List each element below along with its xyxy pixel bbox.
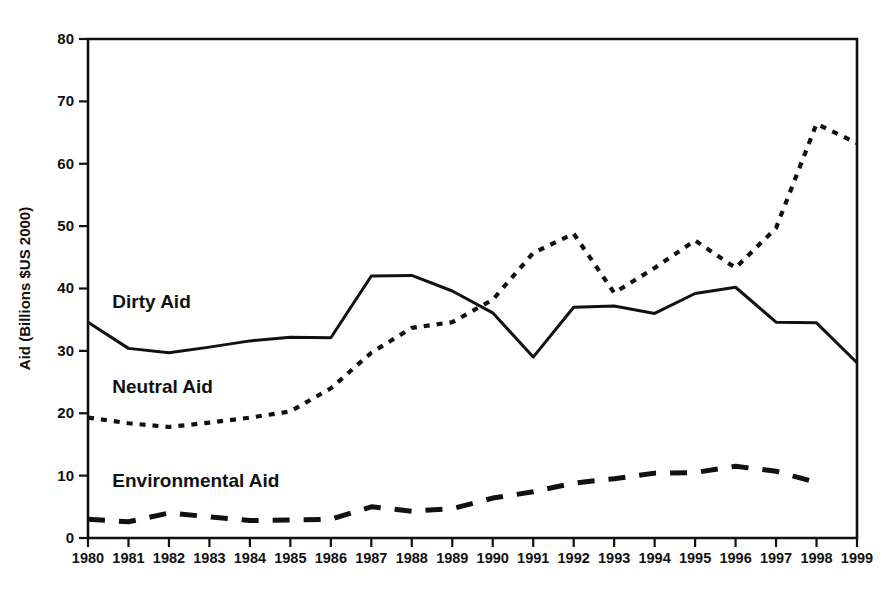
series-label-neutral-aid: Neutral Aid (112, 376, 213, 397)
x-axis-tick-label: 1997 (760, 550, 792, 566)
x-axis-tick-label: 1989 (436, 550, 468, 566)
x-axis-tick-label: 1992 (558, 550, 590, 566)
y-axis-tick-label: 70 (57, 92, 74, 109)
x-axis-tick-label: 1984 (234, 550, 266, 566)
series-label-environmental-aid: Environmental Aid (112, 470, 279, 491)
chart-figure: 0102030405060708019801981198219831984198… (0, 0, 892, 597)
x-axis-tick-label: 1999 (841, 550, 873, 566)
x-axis-tick-label: 1993 (598, 550, 630, 566)
y-axis-tick-label: 50 (57, 217, 74, 234)
y-axis-tick-label: 60 (57, 155, 74, 172)
x-axis-tick-label: 1990 (477, 550, 509, 566)
x-axis-tick-label: 1998 (800, 550, 832, 566)
x-axis-tick-label: 1995 (679, 550, 711, 566)
x-axis-tick-label: 1986 (315, 550, 347, 566)
y-axis-tick-label: 20 (57, 404, 74, 421)
x-axis-tick-label: 1994 (638, 550, 670, 566)
x-axis-tick-label: 1991 (517, 550, 549, 566)
y-axis-title: Aid (Billions $US 2000) (16, 207, 33, 370)
plot-frame (88, 39, 857, 538)
series-label-dirty-aid: Dirty Aid (112, 291, 190, 312)
series-line-dirty-aid (88, 275, 857, 362)
y-axis-tick-label: 40 (57, 279, 74, 296)
x-axis-tick-label: 1987 (355, 550, 387, 566)
x-axis-tick-label: 1988 (396, 550, 428, 566)
x-axis-tick-label: 1985 (274, 550, 306, 566)
y-axis-tick-label: 30 (57, 342, 74, 359)
x-axis-tick-label: 1983 (193, 550, 225, 566)
y-axis-tick-label: 0 (66, 529, 74, 546)
x-axis-tick-label: 1980 (72, 550, 104, 566)
line-chart: 0102030405060708019801981198219831984198… (0, 0, 892, 597)
x-axis-tick-label: 1982 (153, 550, 185, 566)
x-axis-tick-label: 1981 (112, 550, 144, 566)
y-axis-tick-label: 10 (57, 467, 74, 484)
x-axis-tick-label: 1996 (719, 550, 751, 566)
y-axis-tick-label: 80 (57, 30, 74, 47)
